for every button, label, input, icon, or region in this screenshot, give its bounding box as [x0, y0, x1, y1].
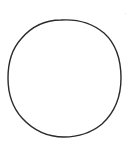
artifact-speck	[125, 13, 126, 14]
hand-drawn-circle	[8, 20, 121, 137]
drawing-canvas	[0, 0, 133, 150]
circle-drawing	[0, 0, 133, 150]
